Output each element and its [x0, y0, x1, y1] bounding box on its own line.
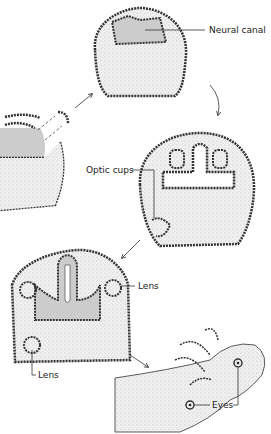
stage-lens-formation: [12, 250, 135, 375]
label-eyes: Eyes: [212, 401, 233, 410]
arrow-3: [122, 240, 140, 258]
label-optic-cups: Optic cups: [86, 166, 134, 175]
stage-neural-fold: [0, 112, 68, 210]
label-lens-left: Lens: [38, 371, 59, 380]
arrow-1: [75, 94, 92, 108]
arrow-4: [130, 355, 148, 367]
stage-larva: [115, 329, 265, 432]
stage-neural-canal: [95, 8, 205, 96]
label-lens-right: Lens: [138, 282, 159, 291]
diagram-canvas: [0, 0, 271, 434]
stage-optic-cups: [132, 133, 254, 246]
label-neural-canal: Neural canal: [209, 26, 266, 35]
arrow-2: [210, 85, 219, 115]
